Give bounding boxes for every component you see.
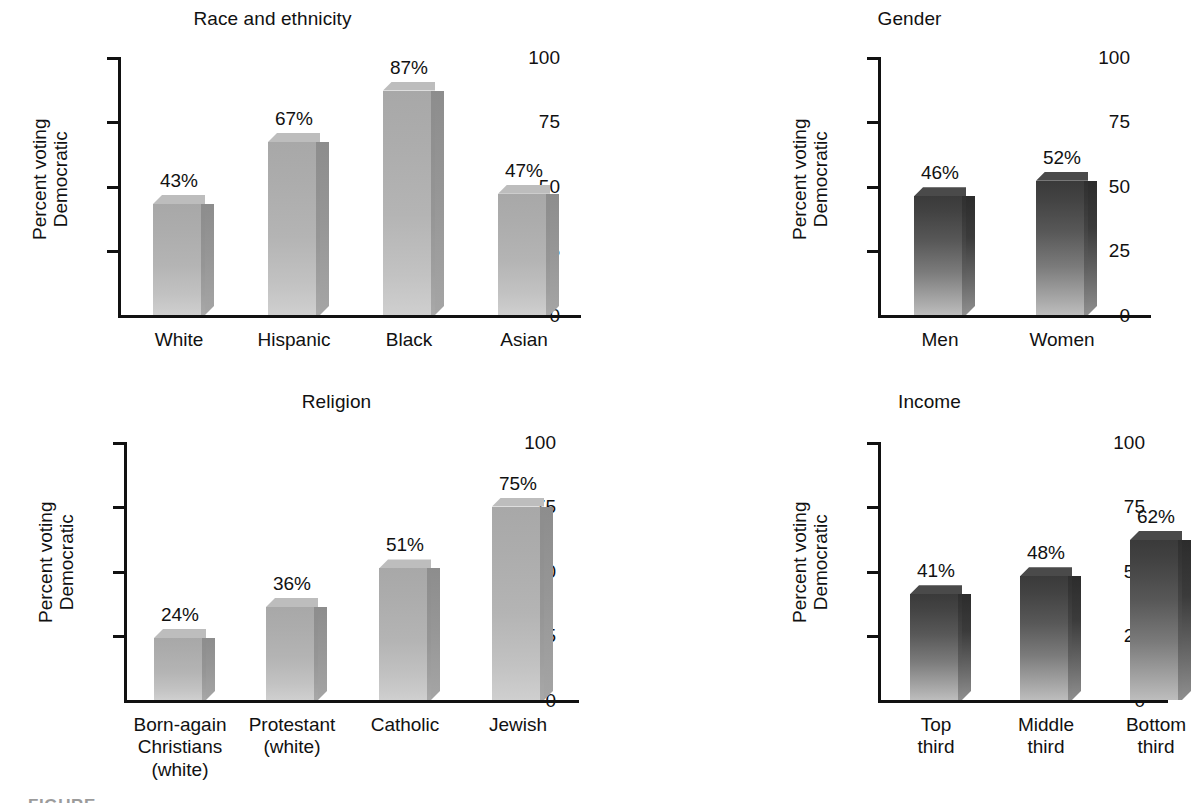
category-line: Catholic [371,714,440,736]
y-axis-label-line-2: Democratic [810,99,831,259]
bar-top-third[interactable]: 41% Top third [910,594,962,700]
bar-side-face [320,142,329,315]
category-line: third [1018,736,1074,758]
category-label-protestant-white: Protestant (white) [249,714,336,759]
bar-value-label: 48% [1027,543,1065,562]
panel-title-religion: Religion [42,391,631,413]
category-label-top-third: Top third [918,714,955,759]
y-axis-label-line-2: Democratic [50,99,71,259]
y-tick-25 [107,250,121,253]
y-axis-label-line-2: Democratic [56,482,77,642]
category-label-middle-third: Middle third [1018,714,1074,759]
category-line: Middle [1018,714,1074,736]
bar-top-face [910,585,962,594]
bar-jewish[interactable]: 75% Jewish [492,507,544,701]
y-tick-25 [867,635,881,638]
bar-front-face [153,204,205,315]
bar-catholic[interactable]: 51% Catholic [379,568,431,700]
bar-top-face [492,498,544,507]
category-label-asian: Asian [500,329,548,351]
category-line: Top [918,714,955,736]
bar-bottom-third[interactable]: 62% Bottom third [1130,540,1182,700]
y-tick-25 [113,635,127,638]
bar-side-face [205,204,214,315]
bar-side-face [318,607,327,700]
bar-asian[interactable]: 47% Asian [498,194,550,315]
y-tick-50 [113,571,127,574]
bar-top-face [383,82,435,91]
bar-front-face [379,568,431,700]
category-line: Christians [134,736,227,758]
y-tick-75 [113,506,127,509]
bar-front-face [383,91,435,316]
y-tick-75 [867,506,881,509]
y-tick-label-100: 100 [1098,48,1130,67]
y-tick-label-50: 50 [1109,177,1130,196]
x-axis-spine [878,315,1151,318]
bar-front-face [910,594,962,700]
axes-race: 100 75 50 25 0 43% White 67% Hispanic [118,57,578,315]
y-tick-label-75: 75 [1109,112,1130,131]
panel-title-race: Race and ethnicity [0,8,567,30]
y-axis-label-religion: Percent voting Democratic [35,482,78,642]
category-line: Protestant [249,714,336,736]
bar-top-face [379,559,431,568]
y-tick-25 [867,250,881,253]
bar-protestant-white[interactable]: 36% Protestant (white) [266,607,318,700]
y-tick-75 [107,121,121,124]
category-label-jewish: Jewish [489,714,547,736]
bar-value-label: 87% [390,58,428,77]
bar-middle-third[interactable]: 48% Middle third [1020,576,1072,700]
bar-side-face [435,91,444,316]
category-line: Born-again [134,714,227,736]
category-line: third [918,736,955,758]
bar-front-face [498,194,550,315]
y-tick-label-25: 25 [1109,241,1130,260]
y-axis-label-income: Percent voting Democratic [789,482,832,642]
y-tick-100 [867,57,881,60]
y-axis-label-line-1: Percent voting [35,482,56,642]
bar-front-face [154,638,206,700]
bar-top-face [266,598,318,607]
bar-side-face [1072,576,1081,700]
y-tick-label-0: 0 [1119,306,1130,325]
y-tick-label-100: 100 [528,48,560,67]
bar-value-label: 43% [160,171,198,190]
bar-top-face [1020,567,1072,576]
category-label-catholic: Catholic [371,714,440,736]
bar-side-face [550,194,559,315]
bar-value-label: 24% [161,605,199,624]
category-label-born-again-christians: Born-again Christians (white) [134,714,227,781]
bar-hispanic[interactable]: 67% Hispanic [268,142,320,315]
bar-front-face [1036,181,1088,315]
y-axis-label-race: Percent voting Democratic [29,99,72,259]
bar-side-face [962,594,971,700]
panel-income: Income Percent voting Democratic 100 75 … [589,391,1178,803]
category-line: (white) [249,736,336,758]
bar-born-again-christians[interactable]: 24% Born-again Christians (white) [154,638,206,700]
category-line: third [1126,736,1186,758]
bar-top-face [153,195,205,204]
y-tick-50 [107,186,121,189]
category-label-men: Men [922,329,959,351]
bar-value-label: 47% [505,161,543,180]
bar-side-face [1088,181,1097,315]
y-axis-label-line-1: Percent voting [789,99,810,259]
bar-men[interactable]: 46% Men [914,196,966,315]
bar-black[interactable]: 87% Black [383,91,435,316]
bar-women[interactable]: 52% Women [1036,181,1088,315]
axes-religion: 100 75 50 25 0 24% Born-again Christians… [124,442,574,700]
bar-front-face [914,196,966,315]
bar-front-face [268,142,320,315]
figure-caption-fragment: FIGURE [28,798,178,803]
y-tick-label-75: 75 [539,112,560,131]
bar-top-face [1036,172,1088,181]
bar-side-face [966,196,975,315]
bar-top-face [154,629,206,638]
bar-white[interactable]: 43% White [153,204,205,315]
bar-front-face [1130,540,1182,700]
y-axis-label-line-1: Percent voting [789,482,810,642]
bar-value-label: 67% [275,109,313,128]
bar-value-label: 36% [273,574,311,593]
